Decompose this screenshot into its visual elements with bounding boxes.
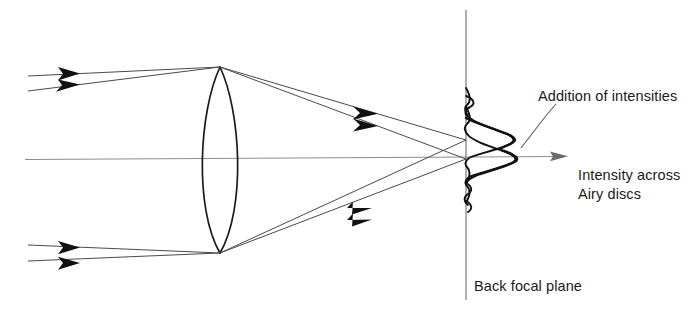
intensity-across-airy-discs-label: Intensity acrossAiry discs bbox=[578, 166, 680, 203]
ray-arrow-icon bbox=[56, 80, 80, 92]
back-focal-plane-label: Back focal plane bbox=[474, 277, 582, 296]
ray-arrow-icon bbox=[347, 214, 372, 227]
ray-arrow-icon bbox=[58, 241, 80, 254]
intensity-label-line-1: Intensity across bbox=[578, 167, 680, 183]
ray bbox=[220, 159, 466, 253]
intensity-label-line-2: Airy discs bbox=[578, 186, 641, 202]
lens-left-surface bbox=[202, 67, 220, 253]
ray-arrow-icon bbox=[58, 67, 80, 81]
ray bbox=[220, 67, 466, 159]
lens-right-surface bbox=[220, 67, 238, 253]
addition-of-intensities-leader bbox=[521, 104, 556, 148]
airy-disc-optics-diagram: Addition of intensities Intensity across… bbox=[0, 0, 691, 321]
upper-outgoing-ray-bundle bbox=[220, 67, 466, 159]
upper-incoming-ray-bundle bbox=[28, 67, 220, 92]
ray bbox=[220, 67, 466, 140]
lower-incoming-ray-bundle bbox=[28, 241, 220, 270]
ray-arrow-icon bbox=[353, 119, 378, 132]
ray bbox=[28, 67, 220, 76]
ray bbox=[28, 67, 220, 91]
lower-outgoing-ray-bundle bbox=[220, 140, 466, 253]
airy-disc-profile-upper bbox=[465, 88, 513, 184]
ray bbox=[28, 245, 220, 253]
ray-arrow-icon bbox=[353, 107, 378, 120]
addition-of-intensities-label: Addition of intensities bbox=[538, 87, 677, 106]
ray bbox=[28, 253, 220, 261]
ray bbox=[220, 140, 466, 253]
diagram-canvas bbox=[0, 0, 691, 321]
biconvex-lens bbox=[202, 67, 237, 253]
